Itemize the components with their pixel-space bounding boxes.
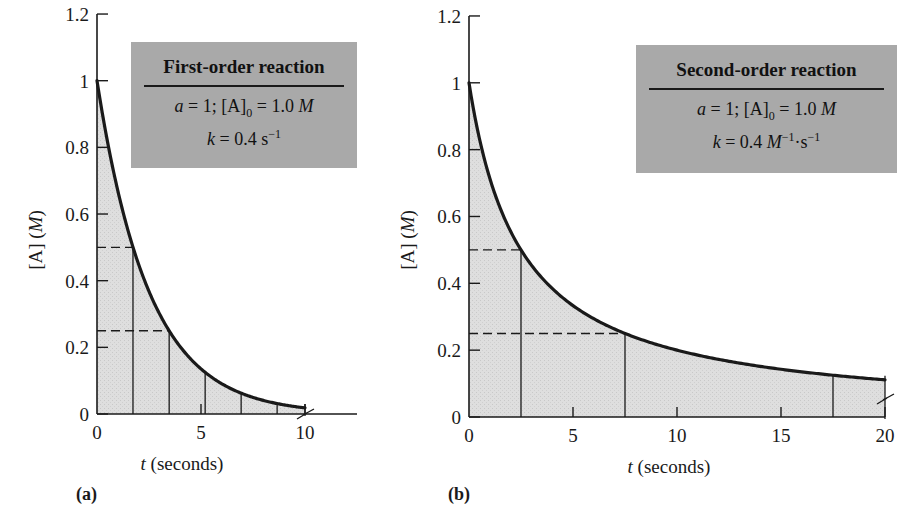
y-tick-label: 0.8 bbox=[437, 140, 461, 161]
info-box-initial-conditions: a = 1; [A]0 = 1.0 M bbox=[131, 95, 357, 124]
y-tick-label: 0.8 bbox=[65, 137, 89, 158]
first-order-info-box: First-order reaction a = 1; [A]0 = 1.0 M… bbox=[131, 42, 357, 168]
x-axis-title: t (seconds) bbox=[141, 453, 224, 475]
y-tick-label: 0.2 bbox=[437, 340, 461, 361]
info-box-divider bbox=[649, 88, 884, 90]
info-box-title: Second-order reaction bbox=[636, 45, 897, 81]
y-tick-label: 1 bbox=[80, 71, 90, 92]
y-tick-label: 1.2 bbox=[65, 4, 89, 25]
x-tick-label: 15 bbox=[772, 425, 791, 446]
x-tick-label: 10 bbox=[668, 425, 687, 446]
y-tick-label: 1 bbox=[452, 73, 462, 94]
x-tick-label: 0 bbox=[464, 425, 474, 446]
x-axis-title: t (seconds) bbox=[628, 456, 711, 478]
y-axis-title: [A] (M) bbox=[25, 210, 47, 270]
x-tick-label: 0 bbox=[92, 422, 102, 443]
x-tick-label: 20 bbox=[876, 425, 895, 446]
info-box-divider bbox=[144, 85, 344, 87]
y-tick-label: 0.6 bbox=[65, 204, 89, 225]
x-tick-label: 5 bbox=[568, 425, 578, 446]
x-tick-label: 5 bbox=[196, 422, 206, 443]
y-tick-label: 0 bbox=[80, 404, 90, 425]
y-tick-label: 1.2 bbox=[437, 6, 461, 27]
info-box-title: First-order reaction bbox=[131, 42, 357, 78]
panel-label: (a) bbox=[76, 484, 97, 505]
y-tick-label: 0.4 bbox=[437, 273, 461, 294]
y-tick-label: 0.4 bbox=[65, 271, 89, 292]
y-tick-label: 0.2 bbox=[65, 337, 89, 358]
second-order-info-box: Second-order reaction a = 1; [A]0 = 1.0 … bbox=[636, 45, 897, 173]
x-tick-label: 10 bbox=[296, 422, 315, 443]
info-box-rate-constant: k = 0.4 s−1 bbox=[131, 123, 357, 150]
y-tick-label: 0.6 bbox=[437, 206, 461, 227]
y-tick-label: 0 bbox=[452, 407, 462, 428]
y-axis-title: [A] (M) bbox=[397, 210, 419, 270]
panel-label: (b) bbox=[448, 484, 470, 505]
info-box-rate-constant: k = 0.4 M−1·s−1 bbox=[636, 126, 897, 153]
info-box-initial-conditions: a = 1; [A]0 = 1.0 M bbox=[636, 98, 897, 127]
